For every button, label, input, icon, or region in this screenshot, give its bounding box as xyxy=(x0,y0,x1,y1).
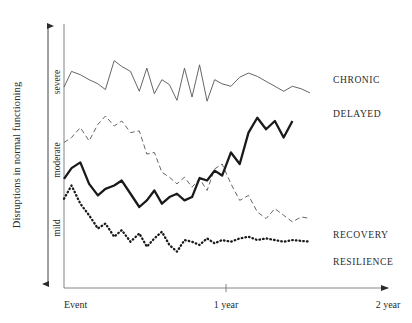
y-axis-title: Disruptions in normal functioning xyxy=(11,81,22,228)
x-tick-label-2-year: 2 year xyxy=(376,299,401,310)
series-label-chronic: CHRONIC xyxy=(333,74,380,85)
series-label-recovery: RECOVERY xyxy=(333,229,389,240)
trajectory-chart: Disruptions in normal functioning severe… xyxy=(0,0,412,323)
figure-container: Disruptions in normal functioning severe… xyxy=(0,0,412,323)
y-tick-label-severe: severe xyxy=(52,70,62,94)
series-line-chronic xyxy=(64,61,310,102)
series-line-resilience xyxy=(64,185,310,251)
series-label-delayed: DELAYED xyxy=(333,108,381,119)
x-tick-label-event: Event xyxy=(64,299,88,310)
series-line-recovery xyxy=(64,116,310,222)
x-tick-label-1-year: 1 year xyxy=(214,299,239,310)
y-tick-label-mild: mild xyxy=(52,219,62,237)
series-label-resilience: RESILIENCE xyxy=(333,256,393,267)
series-line-delayed xyxy=(64,118,292,207)
series-group xyxy=(64,61,310,252)
y-tick-label-moderate: moderate xyxy=(52,142,62,177)
